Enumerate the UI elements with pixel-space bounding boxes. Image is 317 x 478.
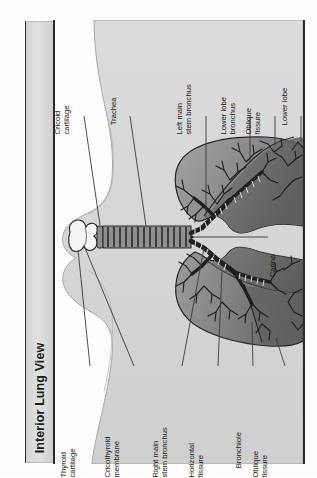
label-carina: Carina: [268, 255, 277, 278]
frame-rule-right: [303, 20, 305, 464]
label-cricothyroid-membrane: Cricothyroid membrane: [103, 436, 122, 477]
label-line: cartilage: [63, 105, 72, 134]
label-line: Lower lobe: [219, 97, 228, 135]
page-title: Interior Lung View: [33, 343, 47, 454]
label-line: Horizontal: [187, 443, 196, 478]
label-line: Oblique: [251, 451, 260, 478]
label-lower-lobe-bronchus: Lower lobe bronchus: [219, 97, 238, 135]
label-line: Lower lobe: [280, 88, 289, 126]
label-line: Bronchiole: [234, 432, 243, 468]
label-oblique-fissure-bottom: Oblique fissure: [251, 451, 270, 478]
figure-title-wrap: Interior Lung View: [26, 338, 54, 458]
label-bronchiole: Bronchiole: [234, 432, 243, 468]
label-line: fissure: [197, 443, 206, 478]
leader-cricoid-cartilage: [84, 116, 100, 225]
label-line: Right main: [151, 427, 160, 477]
label-line: Cricoid: [53, 105, 62, 134]
label-line: bronchus: [229, 97, 238, 135]
label-oblique-fissure-top: Oblique fissure: [244, 108, 263, 135]
left-lung-group: [175, 137, 303, 235]
label-horizontal-fissure: Horizontal fissure: [187, 443, 206, 478]
label-left-main-stem-bronchus: Left main stem bronchus: [175, 84, 194, 134]
cricoid-cartilage-ring: [97, 226, 103, 248]
thyroid-cartilage-shape: [69, 220, 98, 251]
label-line: stem bronchus: [161, 427, 170, 477]
label-line: Thyroid: [59, 448, 68, 477]
label-cricoid-cartilage: Cricoid cartilage: [53, 105, 72, 134]
label-line: cartilage: [69, 448, 78, 477]
label-line: Cricothyroid: [103, 436, 112, 477]
label-line: Oblique: [244, 108, 253, 135]
label-line: Trachea: [109, 97, 118, 125]
label-line: fissure: [254, 108, 263, 135]
label-thyroid-cartilage: Thyroid cartilage: [59, 448, 78, 477]
label-right-main-stem-bronchus: Right main stem bronchus: [151, 427, 170, 477]
figure-title-bar: Interior Lung View: [25, 21, 53, 463]
label-line: stem bronchus: [185, 84, 194, 134]
label-trachea: Trachea: [109, 97, 118, 125]
label-line: Left main: [175, 84, 184, 134]
label-line: membrane: [113, 436, 122, 477]
label-line: fissure: [261, 451, 270, 478]
label-line: Carina: [268, 255, 277, 278]
trachea-tube: [103, 226, 191, 248]
label-lower-lobe-top: Lower lobe: [280, 88, 289, 126]
trachea-group: [103, 226, 191, 248]
